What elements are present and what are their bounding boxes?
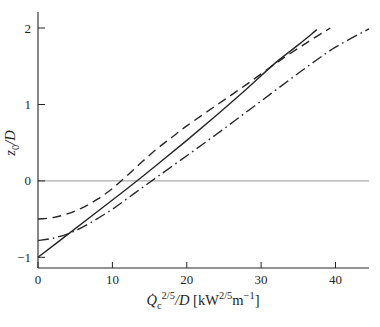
series-dash-dot-line	[38, 29, 369, 241]
series-dashed-line	[38, 28, 330, 219]
y-tick-label: 1	[25, 97, 32, 112]
series-solid-line	[38, 30, 317, 258]
y-tick-label: −1	[17, 250, 31, 265]
x-tick-label: 20	[180, 272, 193, 287]
y-tick-label: 0	[25, 173, 32, 188]
plot-area: −1012010203040Q̇c2/5/D [kW2/5m−1]z0/D	[0, 0, 380, 327]
x-tick-label: 10	[106, 272, 119, 287]
x-axis-label: Q̇c2/5/D [kW2/5m−1]	[146, 290, 259, 311]
x-tick-label: 40	[329, 272, 342, 287]
y-axis-label: z0/D	[2, 130, 21, 157]
x-tick-label: 0	[35, 272, 42, 287]
x-tick-label: 30	[255, 272, 268, 287]
y-tick-label: 2	[25, 21, 32, 36]
chart-figure: −1012010203040Q̇c2/5/D [kW2/5m−1]z0/D	[0, 0, 380, 327]
